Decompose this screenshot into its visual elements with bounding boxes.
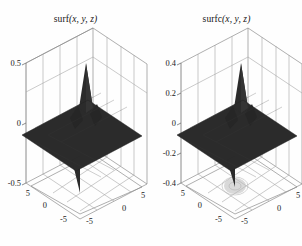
z-tick-mark-2: [22, 183, 26, 185]
x-tick-label-2: -5: [60, 215, 67, 224]
z-tick-label-2: -0.5: [8, 179, 21, 188]
z-tick-mark-0: [22, 63, 26, 65]
z-tick-label-0: 0.5: [11, 59, 21, 68]
x-tick-label-0: 5: [26, 189, 30, 198]
z-tick-label-4: -0.4: [163, 179, 177, 188]
surface-plot-surfc: 0.4 0.2 0 -0.2 -0.4 5 0 -5 5 0 -5: [151, 0, 302, 246]
z-tick-mark-0: [177, 63, 181, 65]
surface-plane: [22, 100, 142, 171]
surface-plane: [177, 100, 297, 171]
box-top-rim: [181, 28, 302, 64]
z-axis-ticks-surf: 0.5 0 -0.5: [8, 59, 26, 188]
z-tick-mark-1: [22, 123, 26, 125]
x-tick-label-1: 0: [198, 201, 202, 210]
figure-canvas: surf(x, y, z): [0, 0, 302, 246]
x-tick-label-1: 0: [43, 201, 47, 210]
z-tick-mark-1: [177, 93, 181, 95]
surface-peak-lit-face: [241, 63, 248, 113]
plot-panel-surf: surf(x, y, z): [0, 0, 151, 246]
y-tick-label-2: -5: [241, 217, 248, 226]
y-tick-label-1: 0: [277, 204, 281, 213]
y-tick-label-0: 5: [296, 191, 300, 200]
box-top-rim: [26, 28, 147, 64]
box-top-rail-left: [26, 28, 93, 63]
plot-panel-surfc: surfc(x, y, z): [151, 0, 302, 246]
z-tick-mark-4: [177, 183, 181, 185]
surface-downward-spike: [72, 156, 80, 193]
x-tick-label-2: -5: [215, 215, 222, 224]
y-tick-label-0: 5: [141, 191, 145, 200]
z-tick-label-1: 0: [17, 119, 21, 128]
z-tick-label-1: 0.2: [166, 89, 176, 98]
z-tick-label-0: 0.4: [166, 59, 177, 68]
z-tick-label-2: 0: [172, 119, 176, 128]
z-tick-mark-3: [177, 153, 181, 155]
z-axis-ticks-surfc: 0.4 0.2 0 -0.2 -0.4: [163, 59, 181, 188]
floor-grid-x1: [43, 174, 97, 210]
y-tick-label-1: 0: [122, 204, 126, 213]
surface-plot-surf: 0.5 0 -0.5 5 0 -5 5 0 -5: [0, 0, 151, 246]
z-tick-mark-2: [177, 123, 181, 125]
surface-peak-lit-face: [86, 63, 93, 113]
z-tick-label-3: -0.2: [163, 149, 176, 158]
x-tick-label-0: 5: [181, 189, 185, 198]
y-tick-label-2: -5: [86, 217, 93, 226]
